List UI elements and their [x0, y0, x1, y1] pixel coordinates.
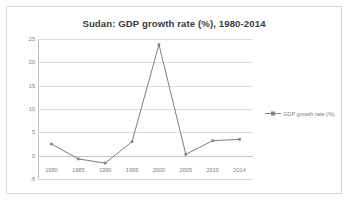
data-point-2000 — [158, 43, 161, 46]
gridline--5 — [38, 179, 253, 180]
y-axis-tick-labels: 2520151050-5 — [10, 39, 35, 179]
y-tick-label-10: 10 — [13, 106, 35, 112]
data-point-1980 — [50, 143, 53, 146]
x-tick-label-2014: 2014 — [233, 167, 245, 173]
data-point-1995 — [131, 140, 134, 143]
y-tick-label-25: 25 — [13, 36, 35, 42]
y-tick-label-5: 5 — [13, 129, 35, 135]
x-axis-tick-labels: 19801985199019952000200520102014 — [38, 167, 253, 179]
y-tick-label-15: 15 — [13, 83, 35, 89]
y-tick-label-20: 20 — [13, 59, 35, 65]
chart-title: Sudan: GDP growth rate (%), 1980-2014 — [7, 18, 341, 29]
x-tick-label-2005: 2005 — [180, 167, 192, 173]
chart-legend: GDP growth rate (%) — [265, 110, 335, 117]
x-tick-label-1990: 1990 — [99, 167, 111, 173]
plot-area — [38, 39, 253, 179]
x-tick-label-1980: 1980 — [45, 167, 57, 173]
x-tick-label-2000: 2000 — [153, 167, 165, 173]
line-marker-icon — [265, 110, 281, 117]
chart-frame: Sudan: GDP growth rate (%), 1980-2014 25… — [6, 6, 342, 194]
data-point-1990 — [104, 162, 107, 165]
x-tick-label-2010: 2010 — [206, 167, 218, 173]
data-point-1985 — [77, 158, 80, 161]
series-polyline — [51, 45, 239, 164]
y-tick-label--5: -5 — [13, 176, 35, 182]
y-tick-label-0: 0 — [13, 153, 35, 159]
data-point-2010 — [211, 139, 214, 142]
series-line-gdp-growth-rate — [38, 39, 253, 179]
x-tick-label-1985: 1985 — [72, 167, 84, 173]
legend-label: GDP growth rate (%) — [283, 111, 335, 117]
x-tick-label-1995: 1995 — [126, 167, 138, 173]
data-point-2014 — [238, 138, 241, 141]
data-point-2005 — [185, 153, 188, 156]
